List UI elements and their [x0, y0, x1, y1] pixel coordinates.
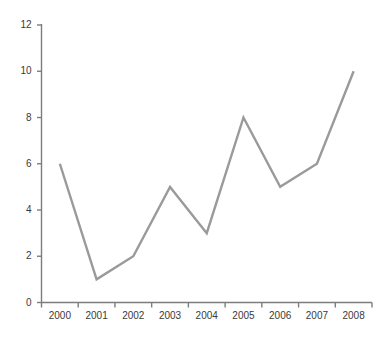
- line-chart: 024681012 200020012002200320042005200620…: [0, 0, 384, 340]
- y-axis-tick-label: 6: [0, 159, 32, 169]
- x-axis-tick-label: 2008: [335, 311, 372, 321]
- y-axis-tick-label: 10: [0, 66, 32, 76]
- y-axis-tick-label: 2: [0, 251, 32, 261]
- data-series-line: [60, 71, 354, 279]
- y-axis-tick-label: 0: [0, 298, 32, 308]
- x-axis-tick-label: 2005: [225, 311, 262, 321]
- chart-plot-area: [0, 0, 384, 340]
- y-axis-tick-label: 12: [0, 20, 32, 30]
- x-axis-tick-label: 2006: [262, 311, 299, 321]
- y-axis-tick-label: 8: [0, 113, 32, 123]
- y-axis-tick-label: 4: [0, 205, 32, 215]
- x-axis-tick-label: 2003: [152, 311, 189, 321]
- x-axis-tick-label: 2002: [115, 311, 152, 321]
- x-axis-tick-label: 2000: [42, 311, 79, 321]
- x-axis-tick-label: 2004: [188, 311, 225, 321]
- x-axis-tick-label: 2007: [299, 311, 336, 321]
- x-axis-tick-label: 2001: [78, 311, 115, 321]
- x-axis-ticks: [42, 303, 373, 308]
